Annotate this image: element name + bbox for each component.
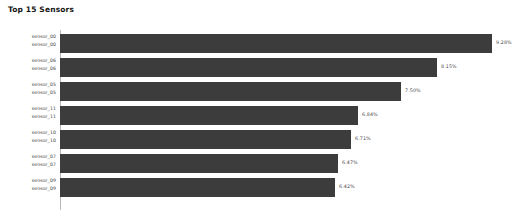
y-tick-label: sensor_05 — [4, 81, 56, 89]
bar-value-label: 7.50% — [405, 88, 421, 93]
y-tick-label: sensor_00 — [4, 33, 56, 41]
bar-row[interactable]: sensor_06sensor_068.15% — [0, 56, 531, 80]
bar-track: 8.15% — [60, 58, 526, 77]
bar-track: 6.42% — [60, 178, 526, 197]
chart-title: Top 15 Sensors — [8, 5, 74, 14]
bar[interactable] — [60, 154, 338, 173]
bar-value-label: 6.47% — [342, 160, 358, 165]
y-tick-label: sensor_11 — [4, 105, 56, 113]
y-tick-label: sensor_05 — [4, 89, 56, 97]
bar[interactable] — [60, 106, 358, 125]
y-tick-label: sensor_10 — [4, 129, 56, 137]
bar[interactable] — [60, 130, 351, 149]
bar-track: 6.84% — [60, 106, 526, 125]
y-tick-label-group: sensor_10sensor_10 — [4, 129, 56, 144]
y-tick-label: sensor_07 — [4, 153, 56, 161]
y-tick-label-group: sensor_00sensor_00 — [4, 33, 56, 48]
y-tick-label: sensor_00 — [4, 41, 56, 49]
bar-value-label: 6.84% — [362, 112, 378, 117]
bar[interactable] — [60, 82, 401, 101]
bar-track: 9.28% — [60, 34, 526, 53]
y-tick-label: sensor_11 — [4, 113, 56, 121]
bar[interactable] — [60, 58, 437, 77]
y-tick-label: sensor_09 — [4, 185, 56, 193]
y-tick-label-group: sensor_06sensor_06 — [4, 57, 56, 72]
bar-track: 6.71% — [60, 130, 526, 149]
bar-row[interactable]: sensor_10sensor_106.71% — [0, 128, 531, 152]
bar-value-label: 6.42% — [339, 184, 355, 189]
bar[interactable] — [60, 178, 335, 197]
y-tick-label-group: sensor_09sensor_09 — [4, 177, 56, 192]
y-tick-label: sensor_06 — [4, 65, 56, 73]
bar-row[interactable]: sensor_11sensor_116.84% — [0, 104, 531, 128]
chart-card: Top 15 Sensors sensor_00sensor_009.28%se… — [0, 0, 531, 222]
y-tick-label: sensor_07 — [4, 161, 56, 169]
bar-track: 7.50% — [60, 82, 526, 101]
bar-value-label: 8.15% — [441, 64, 457, 69]
bar[interactable] — [60, 34, 492, 53]
y-tick-label: sensor_10 — [4, 137, 56, 145]
bar-value-label: 6.71% — [355, 136, 371, 141]
bar-value-label: 9.28% — [496, 40, 512, 45]
y-tick-label: sensor_09 — [4, 177, 56, 185]
bar-track: 6.47% — [60, 154, 526, 173]
plot-area: sensor_00sensor_009.28%sensor_06sensor_0… — [0, 30, 531, 215]
y-tick-label-group: sensor_07sensor_07 — [4, 153, 56, 168]
bar-row[interactable]: sensor_09sensor_096.42% — [0, 176, 531, 200]
bar-row[interactable]: sensor_05sensor_057.50% — [0, 80, 531, 104]
y-tick-label-group: sensor_11sensor_11 — [4, 105, 56, 120]
y-tick-label-group: sensor_05sensor_05 — [4, 81, 56, 96]
bar-row[interactable]: sensor_07sensor_076.47% — [0, 152, 531, 176]
y-tick-label: sensor_06 — [4, 57, 56, 65]
bar-row[interactable]: sensor_00sensor_009.28% — [0, 32, 531, 56]
